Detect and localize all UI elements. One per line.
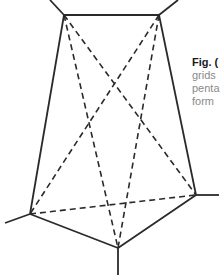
edge-bottom-bottom_left	[30, 214, 118, 248]
edge-top_right-right	[159, 15, 196, 195]
caption-label: Fig. (	[192, 56, 221, 69]
caption-line-1: grids	[192, 69, 221, 82]
diagonal-top_right-bottom	[118, 15, 159, 248]
extension-line-0	[50, 0, 64, 15]
pentagon-diagonals	[30, 15, 196, 248]
caption-line-2: penta	[192, 82, 221, 95]
caption-line-3: form	[192, 95, 221, 108]
edge-bottom_left-top_left	[30, 15, 64, 214]
diagonal-top_right-bottom_left	[30, 15, 159, 214]
extension-line-4	[5, 214, 30, 223]
pentagon-outline	[30, 15, 196, 248]
diagonal-top_left-right	[64, 15, 196, 195]
extension-line-1	[159, 0, 178, 15]
pentagon-diagram	[0, 0, 221, 275]
figure-caption: Fig. ( grids penta form	[192, 56, 221, 108]
vertex-extension-lines	[5, 0, 219, 275]
diagonal-top_left-bottom	[64, 15, 118, 248]
